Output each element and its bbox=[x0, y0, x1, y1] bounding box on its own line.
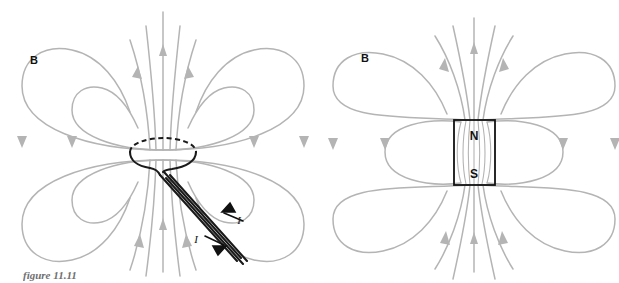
field-line-flare-upper-left-2 bbox=[453, 26, 470, 120]
field-line-flare-upper-left-1 bbox=[130, 40, 150, 150]
magnet-inner-line bbox=[487, 122, 491, 183]
current-label-lower: I bbox=[193, 233, 199, 245]
field-arrow-icon bbox=[182, 234, 192, 248]
panel-bar-magnet: B N S bbox=[309, 0, 619, 283]
current-arrow-down-icon bbox=[213, 246, 226, 255]
field-line-flare-upper-right-1 bbox=[176, 40, 196, 150]
field-lines-group-loop bbox=[17, 12, 309, 276]
field-line-mid-right bbox=[487, 121, 563, 184]
field-line-flare-lower-right-1 bbox=[176, 160, 196, 270]
field-arrow-icon bbox=[159, 44, 167, 56]
field-line-flare-lower-left-1 bbox=[130, 160, 150, 270]
field-arrow-icon bbox=[159, 218, 167, 230]
field-arrow-icon bbox=[299, 136, 309, 148]
field-line-flare-lower-left-2 bbox=[453, 185, 470, 279]
magnet-pole-south-label: S bbox=[470, 167, 478, 181]
field-line-flare-upper-right-2 bbox=[478, 26, 495, 120]
field-line-flare-lower-left-1 bbox=[435, 185, 465, 269]
field-label-b: B bbox=[361, 52, 369, 64]
field-arrow-icon bbox=[17, 136, 27, 148]
field-line-flare-upper-right-1 bbox=[483, 36, 513, 120]
field-arrow-icon bbox=[67, 136, 77, 148]
field-line-flare-lower-right-2 bbox=[478, 185, 495, 279]
field-line-outer-left-upper bbox=[22, 49, 163, 150]
figure-caption: figure 11.11 bbox=[23, 268, 77, 283]
field-arrow-icon bbox=[132, 66, 142, 79]
field-line-flare-lower-left-2 bbox=[146, 160, 156, 276]
field-arrow-icon bbox=[470, 42, 478, 54]
figure-root: B I I bbox=[0, 0, 619, 283]
current-arrow-up-icon bbox=[222, 203, 235, 212]
field-arrow-icon bbox=[134, 234, 144, 248]
lead-wire-left-outer bbox=[160, 175, 237, 261]
field-arrow-icon bbox=[440, 231, 450, 245]
field-label-b: B bbox=[30, 54, 38, 66]
field-arrow-icon bbox=[184, 66, 194, 79]
field-line-flare-lower-right-1 bbox=[483, 185, 513, 269]
field-arrow-icon bbox=[380, 138, 390, 150]
field-arrow-icon bbox=[328, 138, 338, 150]
field-arrow-icon bbox=[249, 136, 259, 148]
magnet-inner-line bbox=[482, 121, 485, 184]
field-arrow-icon bbox=[610, 138, 619, 150]
magnet-inner-line bbox=[457, 122, 461, 183]
field-lines-group-magnet bbox=[328, 18, 619, 279]
field-line-flare-upper-right-2 bbox=[170, 26, 180, 150]
magnet-inner-line bbox=[463, 121, 466, 184]
field-line-flare-upper-left-1 bbox=[435, 36, 465, 120]
field-arrow-icon bbox=[470, 232, 478, 244]
field-line-mid-left bbox=[385, 121, 461, 184]
magnet-pole-north-label: N bbox=[470, 129, 479, 143]
field-arrow-icon bbox=[558, 138, 568, 150]
field-line-outer-right-upper bbox=[163, 49, 304, 150]
loop-wire-front-right bbox=[163, 152, 196, 172]
field-arrow-icon bbox=[498, 231, 508, 245]
panel-current-loop: B I I bbox=[0, 0, 310, 283]
field-line-flare-upper-left-2 bbox=[146, 26, 156, 150]
